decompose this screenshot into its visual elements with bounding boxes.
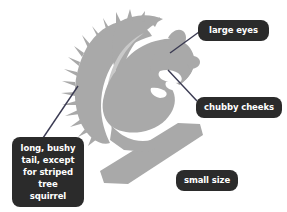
callout-chubby-cheeks[interactable]: chubby cheeks <box>196 97 282 118</box>
squirrel-feature-diagram: large eyes chubby cheeks long, bushy tai… <box>0 0 287 212</box>
callout-long-bushy-tail[interactable]: long, bushy tail, except for striped tre… <box>12 137 84 207</box>
callout-large-eyes[interactable]: large eyes <box>198 20 269 41</box>
callout-small-size[interactable]: small size <box>176 170 238 191</box>
